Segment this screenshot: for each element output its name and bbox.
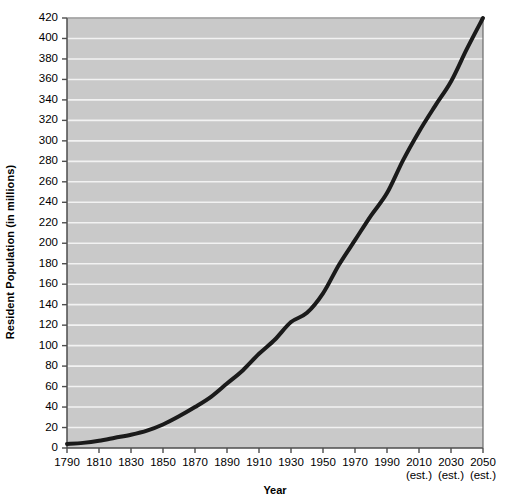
plot-background — [67, 18, 483, 448]
gridlines — [67, 18, 483, 428]
y-tick-label: 380 — [14, 52, 58, 64]
y-tick-label: 340 — [14, 93, 58, 105]
y-tick-label: 360 — [14, 72, 58, 84]
y-tick-label: 200 — [14, 236, 58, 248]
y-tick-label: 420 — [14, 11, 58, 23]
y-tick-label: 140 — [14, 298, 58, 310]
y-tick-label: 60 — [14, 380, 58, 392]
y-tick-label: 80 — [14, 359, 58, 371]
y-tick-label: 240 — [14, 195, 58, 207]
population-chart: Resident Population (in millions) Year 0… — [0, 0, 506, 504]
y-tick-label: 300 — [14, 134, 58, 146]
y-tick-label: 0 — [14, 441, 58, 453]
y-tick-label: 160 — [14, 277, 58, 289]
x-tick-label: 2050 — [460, 456, 506, 468]
y-tick-label: 400 — [14, 31, 58, 43]
y-tick-label: 260 — [14, 175, 58, 187]
y-tick-label: 100 — [14, 339, 58, 351]
y-tick-label: 180 — [14, 257, 58, 269]
y-tick-label: 320 — [14, 113, 58, 125]
plot-canvas — [0, 0, 506, 504]
y-tick-label: 120 — [14, 318, 58, 330]
x-tick-sublabel: (est.) — [460, 469, 506, 481]
y-tick-label: 40 — [14, 400, 58, 412]
y-tick-label: 20 — [14, 421, 58, 433]
y-tick-label: 280 — [14, 154, 58, 166]
y-tick-label: 220 — [14, 216, 58, 228]
